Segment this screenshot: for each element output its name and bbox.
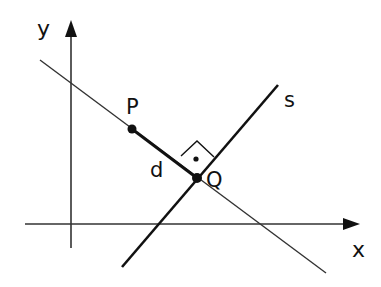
y-axis	[65, 20, 77, 248]
y-axis-arrowhead-icon	[65, 20, 77, 37]
coordinate-diagram: y x P Q s d	[0, 0, 381, 287]
distance-segment-d	[132, 129, 197, 178]
line-s-label: s	[284, 88, 295, 112]
right-angle-marker	[181, 141, 214, 162]
point-p-label: P	[126, 95, 139, 119]
x-axis-label: x	[352, 237, 365, 262]
right-angle-dot-icon	[193, 156, 198, 161]
distance-d-label: d	[150, 158, 163, 182]
x-axis-arrowhead-icon	[343, 218, 360, 230]
y-axis-label: y	[37, 16, 50, 41]
point-q-label: Q	[206, 168, 223, 192]
point-q	[192, 173, 202, 183]
x-axis	[25, 218, 360, 230]
point-p	[128, 125, 137, 134]
diagram-canvas: y x P Q s d	[0, 0, 381, 287]
